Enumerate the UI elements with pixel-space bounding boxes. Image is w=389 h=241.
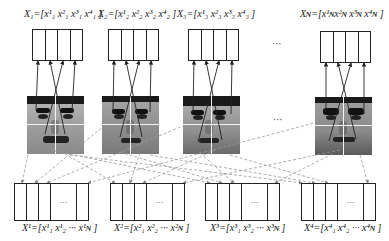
bottom-vector-label-4: X⁴=[x⁴₁ x⁴₂ ··· x⁴ɴ ] bbox=[304, 222, 381, 233]
vector-cell bbox=[39, 184, 51, 220]
vector-cell bbox=[206, 184, 218, 220]
vector-cell-ellipsis: ··· bbox=[338, 184, 364, 220]
vector-cell bbox=[218, 184, 230, 220]
vector-cell bbox=[135, 184, 147, 220]
vector-cell bbox=[326, 184, 338, 220]
vector-cell bbox=[77, 184, 88, 220]
vector-cell bbox=[111, 184, 123, 220]
bottom-vector-label-2: X²=[x²₁ x²₂ ··· x²ɴ ] bbox=[114, 222, 189, 233]
vector-cell bbox=[314, 184, 326, 220]
bottom-vector-box-1: ··· bbox=[14, 183, 89, 221]
vector-cell-ellipsis: ··· bbox=[51, 184, 77, 220]
bottom-vector-label-1: X¹=[x¹₁ x¹₂ ··· x¹ɴ ] bbox=[22, 222, 97, 233]
vector-cell bbox=[15, 184, 27, 220]
vector-cell bbox=[27, 184, 39, 220]
bottom-vector-label-3: X³=[x³₁ x³₂ ··· x³ɴ ] bbox=[210, 222, 285, 233]
vector-cell bbox=[268, 184, 279, 220]
vector-cell-ellipsis: ··· bbox=[242, 184, 268, 220]
vector-cell bbox=[123, 184, 135, 220]
vector-cell-ellipsis: ··· bbox=[147, 184, 173, 220]
bottom-vector-box-4: ··· bbox=[301, 183, 376, 221]
vector-cell bbox=[230, 184, 242, 220]
vector-cell bbox=[302, 184, 314, 220]
bottom-vector-box-3: ··· bbox=[205, 183, 280, 221]
bottom-vector-box-2: ··· bbox=[110, 183, 185, 221]
vector-cell bbox=[173, 184, 184, 220]
vector-cell bbox=[364, 184, 375, 220]
